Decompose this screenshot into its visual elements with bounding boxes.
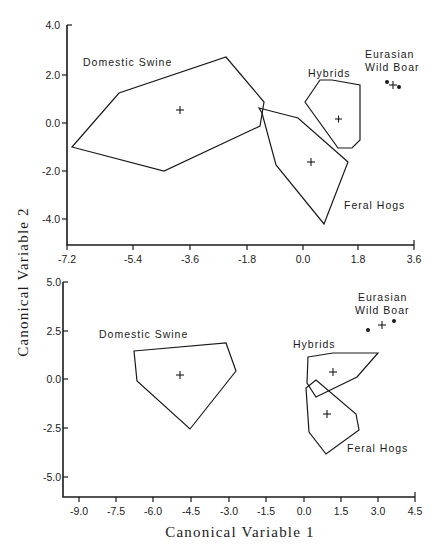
top-x-tick-label: 3.6 xyxy=(407,253,422,265)
feral-hogs-label: Feral Hogs xyxy=(344,199,405,211)
bottom-x-tick-label: -1.5 xyxy=(257,505,275,517)
hybrids-label: Hybrids xyxy=(308,67,351,79)
bottom-y-tick-label: 0.0 xyxy=(46,373,61,385)
hybrids-centroid-marker xyxy=(335,116,342,123)
top-y-tick-label: 2.0 xyxy=(45,69,60,81)
bottom-x-tick-label: 4.5 xyxy=(408,505,423,517)
bottom-x-tick-label: -9.0 xyxy=(70,505,88,517)
bottom-x-tick-label: 3.0 xyxy=(371,505,386,517)
bottom-x-tick-label: -7.5 xyxy=(107,505,125,517)
eurasian-centroid-marker xyxy=(389,81,397,89)
top-x-tick-label: 1.8 xyxy=(351,253,366,265)
top-x-tick-label: -1.8 xyxy=(238,253,256,265)
top-x-tick-label: 0.0 xyxy=(296,253,311,265)
eurasian-point xyxy=(392,319,396,323)
bottom-group-eurasian-wild-boar: Eurasian Wild Boar xyxy=(355,291,410,332)
eurasian-point xyxy=(366,328,370,332)
bottom-x-tick-label: -3.0 xyxy=(220,505,238,517)
top-panel: 4.0 2.0 0.0 -2.0 -4.0 -7.2 -5.4 -3.6 -1.… xyxy=(42,19,422,265)
hybrids-hull xyxy=(307,353,378,397)
eurasian-label-line1: Eurasian xyxy=(358,291,407,303)
y-axis-title: Canonical Variable 2 xyxy=(15,207,31,357)
bottom-x-tick-label: 0.0 xyxy=(297,505,312,517)
top-x-ticks: -7.2 -5.4 -3.6 -1.8 0.0 1.8 3.6 xyxy=(58,240,421,265)
top-group-feral-hogs: Feral Hogs xyxy=(259,108,405,224)
eurasian-point xyxy=(397,85,401,89)
bottom-x-tick-label: -4.5 xyxy=(182,505,200,517)
bottom-group-feral-hogs: Feral Hogs xyxy=(306,380,408,454)
top-x-tick-label: -5.4 xyxy=(124,253,142,265)
top-x-tick-label: -7.2 xyxy=(58,253,76,265)
domestic-swine-hull xyxy=(134,343,236,429)
domestic-swine-label: Domestic Swine xyxy=(83,56,172,68)
top-y-tick-label: 4.0 xyxy=(45,19,60,31)
bottom-x-ticks: -9.0 -7.5 -6.0 -4.5 -3.0 -1.5 0.0 1.5 3.… xyxy=(70,492,422,517)
bottom-y-tick-label: 2.5 xyxy=(46,325,61,337)
bottom-y-tick-label: -5.0 xyxy=(43,471,61,483)
top-group-eurasian-wild-boar: Eurasian Wild Boar xyxy=(365,48,420,89)
bottom-y-ticks: 5.0 2.5 0.0 -2.5 -5.0 xyxy=(43,276,68,483)
eurasian-label-line2: Wild Boar xyxy=(355,304,410,316)
feral-hogs-label: Feral Hogs xyxy=(347,442,408,454)
bottom-x-tick-label: -6.0 xyxy=(144,505,162,517)
top-y-tick-label: -2.0 xyxy=(42,165,60,177)
canonical-variates-figure: Canonical Variable 2 Canonical Variable … xyxy=(0,0,439,558)
top-group-domestic-swine: Domestic Swine xyxy=(72,56,264,171)
domestic-swine-label: Domestic Swine xyxy=(99,328,188,340)
eurasian-label-line2: Wild Boar xyxy=(365,61,420,73)
eurasian-point xyxy=(385,80,389,84)
top-group-hybrids: Hybrids xyxy=(305,67,360,148)
feral-hogs-centroid-marker xyxy=(323,410,331,418)
feral-hogs-centroid-marker xyxy=(307,158,315,166)
top-y-tick-label: 0.0 xyxy=(45,117,60,129)
bottom-x-tick-label: 1.5 xyxy=(334,505,349,517)
hybrids-hull xyxy=(305,80,360,148)
top-y-tick-label: -4.0 xyxy=(42,213,60,225)
domestic-swine-hull xyxy=(72,57,264,171)
bottom-group-domestic-swine: Domestic Swine xyxy=(99,328,236,429)
bottom-y-tick-label: -2.5 xyxy=(43,422,61,434)
top-x-tick-label: -3.6 xyxy=(181,253,199,265)
hybrids-centroid-marker xyxy=(329,368,337,376)
x-axis-title: Canonical Variable 1 xyxy=(165,524,315,540)
hybrids-label: Hybrids xyxy=(293,338,336,350)
eurasian-centroid-marker xyxy=(378,321,386,329)
bottom-y-tick-label: 5.0 xyxy=(46,276,61,288)
bottom-panel: 5.0 2.5 0.0 -2.5 -5.0 -9.0 -7.5 -6.0 -4.… xyxy=(43,276,423,517)
eurasian-label-line1: Eurasian xyxy=(365,48,414,60)
feral-hogs-hull xyxy=(259,108,348,224)
domestic-swine-centroid-marker xyxy=(176,371,184,379)
domestic-swine-centroid-marker xyxy=(176,106,184,114)
